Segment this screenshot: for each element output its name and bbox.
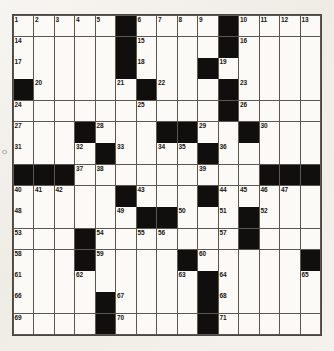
letter-cell[interactable]: 70: [116, 314, 136, 335]
letter-cell[interactable]: 17: [14, 58, 34, 79]
letter-cell[interactable]: [198, 229, 218, 250]
letter-cell[interactable]: [34, 229, 54, 250]
letter-cell[interactable]: 6: [137, 16, 157, 37]
letter-cell[interactable]: 46: [260, 186, 280, 207]
letter-cell[interactable]: 41: [34, 186, 54, 207]
letter-cell[interactable]: 13: [301, 16, 321, 37]
letter-cell[interactable]: [239, 58, 259, 79]
letter-cell[interactable]: [239, 271, 259, 292]
letter-cell[interactable]: 38: [96, 165, 116, 186]
letter-cell[interactable]: [34, 271, 54, 292]
letter-cell[interactable]: [260, 292, 280, 313]
letter-cell[interactable]: 25: [137, 101, 157, 122]
letter-cell[interactable]: 19: [219, 58, 239, 79]
letter-cell[interactable]: 64: [219, 271, 239, 292]
letter-cell[interactable]: [116, 271, 136, 292]
letter-cell[interactable]: 39: [198, 165, 218, 186]
letter-cell[interactable]: 18: [137, 58, 157, 79]
letter-cell[interactable]: [178, 186, 198, 207]
letter-cell[interactable]: [34, 292, 54, 313]
letter-cell[interactable]: [178, 79, 198, 100]
letter-cell[interactable]: [219, 165, 239, 186]
letter-cell[interactable]: [157, 58, 177, 79]
letter-cell[interactable]: [157, 292, 177, 313]
letter-cell[interactable]: 28: [96, 122, 116, 143]
letter-cell[interactable]: [198, 37, 218, 58]
letter-cell[interactable]: 24: [14, 101, 34, 122]
letter-cell[interactable]: 3: [55, 16, 75, 37]
letter-cell[interactable]: [280, 58, 300, 79]
letter-cell[interactable]: 34: [157, 143, 177, 164]
letter-cell[interactable]: [157, 165, 177, 186]
letter-cell[interactable]: [239, 314, 259, 335]
letter-cell[interactable]: 29: [198, 122, 218, 143]
letter-cell[interactable]: 10: [239, 16, 259, 37]
letter-cell[interactable]: [116, 101, 136, 122]
letter-cell[interactable]: [157, 250, 177, 271]
letter-cell[interactable]: [280, 122, 300, 143]
letter-cell[interactable]: [239, 292, 259, 313]
letter-cell[interactable]: [55, 292, 75, 313]
letter-cell[interactable]: 11: [260, 16, 280, 37]
letter-cell[interactable]: 42: [55, 186, 75, 207]
letter-cell[interactable]: [34, 58, 54, 79]
letter-cell[interactable]: 63: [178, 271, 198, 292]
letter-cell[interactable]: 31: [14, 143, 34, 164]
letter-cell[interactable]: [178, 58, 198, 79]
letter-cell[interactable]: [137, 165, 157, 186]
letter-cell[interactable]: 1: [14, 16, 34, 37]
letter-cell[interactable]: 48: [14, 207, 34, 228]
letter-cell[interactable]: [116, 250, 136, 271]
letter-cell[interactable]: 7: [157, 16, 177, 37]
letter-cell[interactable]: [239, 143, 259, 164]
letter-cell[interactable]: 32: [75, 143, 95, 164]
letter-cell[interactable]: [34, 143, 54, 164]
letter-cell[interactable]: 71: [219, 314, 239, 335]
letter-cell[interactable]: [260, 250, 280, 271]
letter-cell[interactable]: 30: [260, 122, 280, 143]
letter-cell[interactable]: [198, 207, 218, 228]
letter-cell[interactable]: [198, 101, 218, 122]
letter-cell[interactable]: [116, 229, 136, 250]
letter-cell[interactable]: [301, 186, 321, 207]
letter-cell[interactable]: [260, 271, 280, 292]
letter-cell[interactable]: [178, 101, 198, 122]
letter-cell[interactable]: [301, 122, 321, 143]
letter-cell[interactable]: [55, 101, 75, 122]
letter-cell[interactable]: 37: [75, 165, 95, 186]
letter-cell[interactable]: 59: [96, 250, 116, 271]
letter-cell[interactable]: 50: [178, 207, 198, 228]
letter-cell[interactable]: 40: [14, 186, 34, 207]
letter-cell[interactable]: 33: [116, 143, 136, 164]
letter-cell[interactable]: 66: [14, 292, 34, 313]
letter-cell[interactable]: [157, 37, 177, 58]
letter-cell[interactable]: [55, 37, 75, 58]
letter-cell[interactable]: [75, 101, 95, 122]
letter-cell[interactable]: [96, 271, 116, 292]
letter-cell[interactable]: [260, 229, 280, 250]
letter-cell[interactable]: 35: [178, 143, 198, 164]
letter-cell[interactable]: [96, 207, 116, 228]
letter-cell[interactable]: [75, 314, 95, 335]
letter-cell[interactable]: 52: [260, 207, 280, 228]
letter-cell[interactable]: 16: [239, 37, 259, 58]
letter-cell[interactable]: [260, 101, 280, 122]
letter-cell[interactable]: [260, 58, 280, 79]
letter-cell[interactable]: [96, 101, 116, 122]
letter-cell[interactable]: [301, 143, 321, 164]
letter-cell[interactable]: [157, 271, 177, 292]
letter-cell[interactable]: 12: [280, 16, 300, 37]
letter-cell[interactable]: [55, 143, 75, 164]
letter-cell[interactable]: 44: [219, 186, 239, 207]
letter-cell[interactable]: [301, 207, 321, 228]
letter-cell[interactable]: [301, 292, 321, 313]
letter-cell[interactable]: [55, 229, 75, 250]
letter-cell[interactable]: [137, 271, 157, 292]
letter-cell[interactable]: 14: [14, 37, 34, 58]
letter-cell[interactable]: 67: [116, 292, 136, 313]
letter-cell[interactable]: [301, 58, 321, 79]
letter-cell[interactable]: [75, 186, 95, 207]
letter-cell[interactable]: 8: [178, 16, 198, 37]
letter-cell[interactable]: 43: [137, 186, 157, 207]
letter-cell[interactable]: [96, 58, 116, 79]
